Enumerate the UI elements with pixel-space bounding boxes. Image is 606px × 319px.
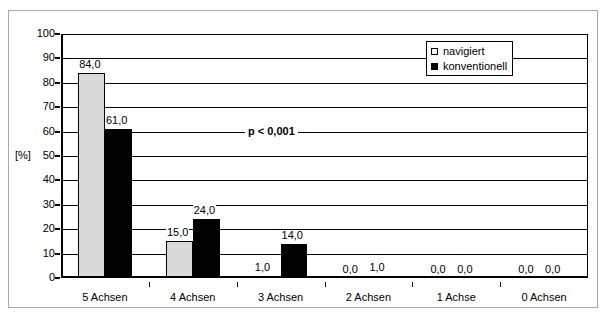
bar-navigiert-5-achsen[interactable] bbox=[78, 73, 105, 278]
x-axis-category-label: 2 Achsen bbox=[324, 282, 412, 306]
y-axis-tick-mark bbox=[55, 33, 60, 35]
x-axis: 5 Achsen4 Achsen3 Achsen2 Achsen1 Achse0… bbox=[61, 282, 588, 306]
bar-navigiert-0-achsen[interactable] bbox=[517, 277, 544, 278]
y-axis-tick-mark bbox=[55, 204, 60, 206]
bar-group: 84,061,0 bbox=[61, 34, 149, 278]
y-axis-tick-mark bbox=[55, 253, 60, 255]
bar-navigiert-3-achsen[interactable] bbox=[254, 276, 281, 278]
x-axis-tick-mark bbox=[412, 282, 413, 287]
bar-data-label: 24,0 bbox=[193, 205, 216, 216]
bar-data-label: 0,0 bbox=[342, 264, 359, 275]
x-axis-category-label: 1 Achse bbox=[412, 282, 500, 306]
chart-legend: navigiert konventionell bbox=[426, 41, 513, 76]
bar-konventionell-3-achsen[interactable] bbox=[281, 244, 308, 278]
legend-item-navigiert[interactable]: navigiert bbox=[431, 45, 507, 57]
legend-swatch-navigiert-icon bbox=[431, 48, 438, 55]
y-axis-tick-label: 20 bbox=[21, 223, 55, 234]
y-axis-tick-mark bbox=[55, 131, 60, 133]
bar-group: 1,014,0 bbox=[237, 34, 325, 278]
legend-swatch-konventionell-icon bbox=[431, 63, 438, 70]
bar-navigiert-2-achsen[interactable] bbox=[342, 277, 369, 278]
y-axis-tick-label: 40 bbox=[21, 174, 55, 185]
legend-item-konventionell[interactable]: konventionell bbox=[431, 60, 507, 72]
bar-data-label: 1,0 bbox=[254, 262, 271, 273]
bar-data-label: 0,0 bbox=[517, 264, 534, 275]
x-axis-category-label: 0 Achsen bbox=[500, 282, 588, 306]
x-axis-tick-mark bbox=[325, 282, 326, 287]
bar-data-label: 61,0 bbox=[105, 115, 128, 126]
y-axis-tick-mark bbox=[55, 57, 60, 59]
bar-data-label: 0,0 bbox=[429, 264, 446, 275]
y-axis-tick-label: 70 bbox=[21, 101, 55, 112]
bar-konventionell-5-achsen[interactable] bbox=[105, 129, 132, 278]
x-axis-category-label: 4 Achsen bbox=[149, 282, 237, 306]
bar-group: 15,024,0 bbox=[149, 34, 237, 278]
bar-konventionell-1-achse[interactable] bbox=[456, 277, 483, 278]
y-axis-tick-label: 0 bbox=[21, 272, 55, 283]
legend-label-navigiert: navigiert bbox=[443, 46, 485, 57]
y-axis-tick-label: 60 bbox=[21, 126, 55, 137]
y-axis-tick-label: 100 bbox=[21, 28, 55, 39]
bar-data-label: 0,0 bbox=[544, 264, 561, 275]
y-axis-title: [%] bbox=[15, 150, 31, 161]
bar-data-label: 84,0 bbox=[78, 59, 101, 70]
bar-data-label: 0,0 bbox=[456, 264, 473, 275]
y-axis-tick-mark bbox=[55, 155, 60, 157]
chart-figure: 1009080706050403020100 [%] 84,061,015,02… bbox=[8, 10, 598, 308]
p-value-annotation: p < 0,001 bbox=[245, 124, 298, 138]
y-axis-tick-mark bbox=[55, 82, 60, 84]
y-axis-tick-mark bbox=[55, 277, 60, 279]
bar-konventionell-2-achsen[interactable] bbox=[368, 276, 395, 278]
bar-group: 0,01,0 bbox=[324, 34, 412, 278]
bar-data-label: 14,0 bbox=[281, 230, 304, 241]
bar-konventionell-4-achsen[interactable] bbox=[193, 219, 220, 278]
x-axis-tick-mark bbox=[149, 282, 150, 287]
bar-navigiert-1-achse[interactable] bbox=[429, 277, 456, 278]
bar-group: 0,00,0 bbox=[500, 34, 588, 278]
bar-konventionell-0-achsen[interactable] bbox=[544, 277, 571, 278]
bar-data-label: 15,0 bbox=[166, 227, 189, 238]
bar-navigiert-4-achsen[interactable] bbox=[166, 241, 193, 278]
y-axis-tick-label: 10 bbox=[21, 248, 55, 259]
x-axis-category-label: 3 Achsen bbox=[237, 282, 325, 306]
x-axis-tick-mark bbox=[237, 282, 238, 287]
bar-data-label: 1,0 bbox=[368, 262, 385, 273]
y-axis-tick-mark bbox=[55, 228, 60, 230]
legend-label-konventionell: konventionell bbox=[443, 61, 507, 72]
y-axis-tick-mark bbox=[55, 179, 60, 181]
y-axis-tick-label: 80 bbox=[21, 77, 55, 88]
x-axis-tick-mark bbox=[500, 282, 501, 287]
y-axis-tick-label: 30 bbox=[21, 199, 55, 210]
y-axis-tick-label: 90 bbox=[21, 52, 55, 63]
x-axis-category-label: 5 Achsen bbox=[61, 282, 149, 306]
y-axis-tick-mark bbox=[55, 106, 60, 108]
